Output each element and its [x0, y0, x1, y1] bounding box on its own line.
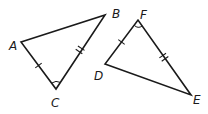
vertex-label-b: B: [112, 7, 120, 21]
vertex-label-f: F: [140, 8, 148, 22]
angle-c-arc: [52, 81, 61, 83]
congruent-triangles-diagram: A B C D E F: [0, 0, 208, 114]
triangle-def-outline: [105, 20, 191, 95]
vertex-label-a: A: [8, 39, 17, 53]
vertex-label-c: C: [51, 96, 60, 110]
triangle-abc: [21, 15, 105, 89]
triangle-def: [105, 20, 191, 95]
vertex-label-d: D: [94, 69, 103, 83]
vertex-label-e: E: [193, 93, 201, 107]
triangle-abc-outline: [21, 15, 105, 89]
